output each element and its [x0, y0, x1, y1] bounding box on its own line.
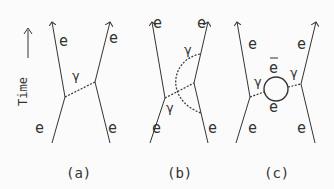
- photon-propagator-arc: [176, 54, 201, 113]
- photon-propagator: [65, 82, 95, 97]
- diagram-c: e e e e γ γ e e (c): [236, 22, 316, 181]
- caption-a: (a): [66, 165, 91, 181]
- photon-propagator-left: [250, 92, 264, 97]
- label-e-bottom-left: e: [35, 119, 44, 137]
- label-e-top-left: e: [153, 14, 162, 32]
- label-e-bottom-right: e: [208, 119, 217, 137]
- diagram-a: e e e e γ (a): [35, 22, 118, 181]
- caption-b: (b): [167, 165, 192, 181]
- label-e-top-left: e: [248, 35, 257, 53]
- label-photon-upper: γ: [184, 42, 192, 57]
- label-e-bottom-right: e: [108, 119, 117, 137]
- label-e-top-right: e: [297, 35, 306, 53]
- label-photon: γ: [72, 68, 80, 83]
- label-positron: e: [269, 59, 278, 77]
- time-axis: Time: [16, 28, 32, 106]
- label-e-bottom-left: e: [248, 119, 257, 137]
- label-e-top-left: e: [59, 32, 68, 50]
- photon-propagator-straight: [165, 83, 194, 98]
- photon-propagator-right: [288, 84, 301, 87]
- label-loop-electron: e: [269, 98, 278, 116]
- label-photon-right: γ: [290, 65, 298, 80]
- electron-line-right: [194, 22, 208, 143]
- label-photon-lower: γ: [166, 100, 174, 115]
- caption-c: (c): [264, 165, 289, 181]
- label-e-bottom-right: e: [297, 119, 306, 137]
- label-photon-left: γ: [254, 74, 262, 89]
- feynman-diagrams-figure: Time e e e e γ (a) e e e e γ γ (b): [0, 0, 334, 189]
- label-e-top-right: e: [197, 14, 206, 32]
- label-e-bottom-left: e: [152, 119, 161, 137]
- label-e-top-right: e: [109, 29, 118, 47]
- time-label: Time: [16, 77, 30, 106]
- diagram-b: e e e e γ γ (b): [150, 14, 217, 181]
